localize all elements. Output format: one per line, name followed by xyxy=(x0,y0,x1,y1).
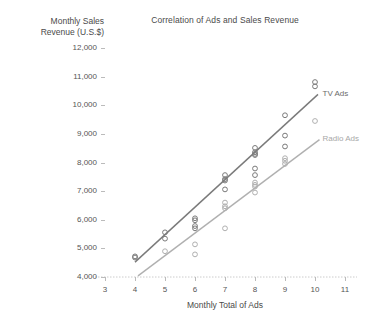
y-tick-label: 10,000 xyxy=(51,100,97,109)
x-tick-label: 4 xyxy=(123,285,147,294)
x-tick-mark xyxy=(225,277,226,281)
data-point xyxy=(253,190,258,195)
y-tick-label: 12,000 xyxy=(51,43,97,52)
y-tick-label: 8,000 xyxy=(51,158,97,167)
x-tick-mark xyxy=(135,277,136,281)
x-tick-mark xyxy=(345,277,346,281)
y-tick-label: 11,000 xyxy=(51,72,97,81)
y-tick-mark xyxy=(101,191,105,192)
y-tick-mark xyxy=(101,248,105,249)
x-tick-mark xyxy=(195,277,196,281)
data-point xyxy=(313,119,318,124)
y-tick-mark xyxy=(101,220,105,221)
x-tick-label: 11 xyxy=(333,285,357,294)
x-tick-label: 10 xyxy=(303,285,327,294)
x-tick-label: 3 xyxy=(93,285,117,294)
y-tick-label: 9,000 xyxy=(51,129,97,138)
y-tick-mark xyxy=(101,163,105,164)
x-tick-label: 8 xyxy=(243,285,267,294)
y-tick-mark xyxy=(101,105,105,106)
data-point xyxy=(253,166,258,171)
scatter-chart: Monthly Sales Revenue (U.S.$) Correlatio… xyxy=(0,0,390,322)
x-tick-label: 5 xyxy=(153,285,177,294)
x-axis-label: Monthly Total of Ads xyxy=(100,300,350,310)
series-label-radio-ads: Radio Ads xyxy=(323,134,359,143)
y-tick-mark xyxy=(101,48,105,49)
data-point xyxy=(223,226,228,231)
data-point xyxy=(253,173,258,178)
data-point xyxy=(163,236,168,241)
x-tick-label: 6 xyxy=(183,285,207,294)
x-tick-mark xyxy=(285,277,286,281)
x-tick-mark xyxy=(105,277,106,281)
trendline-radio-ads xyxy=(138,140,320,276)
y-tick-label: 6,000 xyxy=(51,215,97,224)
series-label-tv-ads: TV Ads xyxy=(323,89,349,98)
x-tick-mark xyxy=(315,277,316,281)
data-point xyxy=(223,187,228,192)
x-tick-mark xyxy=(165,277,166,281)
y-tick-mark xyxy=(101,77,105,78)
data-point xyxy=(163,249,168,254)
y-tick-label: 5,000 xyxy=(51,243,97,252)
x-tick-label: 7 xyxy=(213,285,237,294)
data-point xyxy=(283,113,288,118)
data-point xyxy=(193,252,198,257)
y-tick-label: 7,000 xyxy=(51,186,97,195)
data-point xyxy=(283,133,288,138)
x-tick-label: 9 xyxy=(273,285,297,294)
data-point xyxy=(193,242,198,247)
y-tick-label: 4,000 xyxy=(51,272,97,281)
x-tick-mark xyxy=(255,277,256,281)
y-tick-mark xyxy=(101,134,105,135)
data-point xyxy=(283,144,288,149)
